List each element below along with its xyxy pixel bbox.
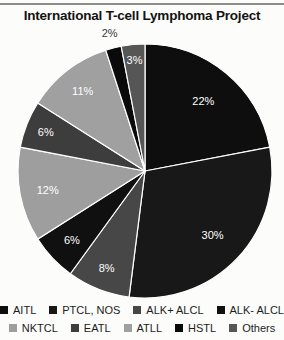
legend-label-ptcl-nos: PTCL, NOS xyxy=(62,304,120,316)
pie-value-label-hstl: 2% xyxy=(102,27,118,39)
legend-item-others: Others xyxy=(229,322,275,334)
legend-swatch-aitl xyxy=(0,306,8,314)
legend-label-alk-alcl: ALK- ALCL xyxy=(230,304,284,316)
legend-swatch-atll xyxy=(124,324,132,332)
pie-value-label-eatl: 6% xyxy=(38,126,54,138)
legend-label-nktcl: NKTCL xyxy=(22,322,58,334)
legend-label-hstl: HSTL xyxy=(188,322,216,334)
legend-row-2: NKTCLEATLATLLHSTLOthers xyxy=(0,319,284,337)
legend-label-aitl: AITL xyxy=(13,304,36,316)
legend-item-ptcl-nos: PTCL, NOS xyxy=(49,304,120,316)
legend-swatch-hstl xyxy=(175,324,183,332)
pie-chart: 22%30%8%6%12%6%11%2%3% xyxy=(0,0,284,340)
legend-swatch-alk-alcl xyxy=(217,306,225,314)
figure-panel: International T-cell Lymphoma Project 22… xyxy=(0,0,284,340)
pie-value-label-ptcl-nos: 30% xyxy=(202,229,224,241)
legend-label-others: Others xyxy=(242,322,275,334)
legend-item-eatl: EATL xyxy=(71,322,111,334)
legend-item-nktcl: NKTCL xyxy=(9,322,58,334)
pie-value-label-nktcl: 12% xyxy=(37,184,59,196)
pie-value-label-atll: 11% xyxy=(72,85,93,97)
legend-item-hstl: HSTL xyxy=(175,322,216,334)
pie-value-label-alk-alcl: 6% xyxy=(64,234,80,246)
legend-swatch-alk-alcl xyxy=(133,306,141,314)
legend-swatch-others xyxy=(229,324,237,332)
legend-row-1: AITLPTCL, NOSALK+ ALCLALK- ALCL xyxy=(0,301,284,319)
legend-item-aitl: AITL xyxy=(0,304,36,316)
pie-value-label-aitl: 22% xyxy=(192,95,214,107)
legend-swatch-eatl xyxy=(71,324,79,332)
pie-slice-ptcl-nos xyxy=(129,147,272,298)
legend-label-alk-alcl: ALK+ ALCL xyxy=(146,304,203,316)
pie-value-label-others: 3% xyxy=(127,54,143,66)
legend-item-atll: ATLL xyxy=(124,322,162,334)
legend-swatch-nktcl xyxy=(9,324,17,332)
legend-label-eatl: EATL xyxy=(84,322,111,334)
legend-label-atll: ATLL xyxy=(137,322,162,334)
legend-item-alk-alcl: ALK- ALCL xyxy=(217,304,284,316)
legend-item-alk-alcl: ALK+ ALCL xyxy=(133,304,203,316)
pie-value-label-alk-alcl: 8% xyxy=(99,262,115,274)
legend-swatch-ptcl-nos xyxy=(49,306,57,314)
chart-legend: AITLPTCL, NOSALK+ ALCLALK- ALCLNKTCLEATL… xyxy=(0,301,284,337)
